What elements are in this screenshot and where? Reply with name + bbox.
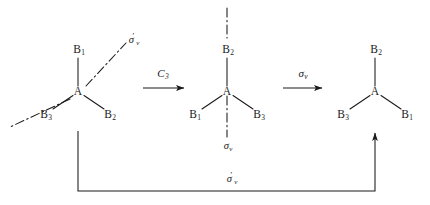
operation-label-sigma-v: σv — [299, 68, 308, 79]
bond-a-b2 — [84, 96, 104, 110]
molecule-left-label-b2: B2 — [104, 109, 116, 121]
molecule-middle-label-a: A — [223, 86, 231, 98]
molecule-right-label-b2: B2 — [370, 44, 382, 56]
molecule-left-label-b1: B1 — [73, 44, 85, 56]
molecule-left-label-b3: B3 — [40, 109, 52, 121]
diagram-lines — [0, 0, 430, 205]
symmetry-diagram-canvas: B1 A B3 B2 σ′v C3 B2 A B1 B3 σv σv B2 A … — [0, 0, 430, 205]
molecule-right-label-b1: B1 — [401, 109, 413, 121]
molecule-middle-mirror-label-sigma-v: σv — [224, 141, 233, 152]
bond-a-b3 — [350, 96, 370, 110]
molecule-right-label-a: A — [371, 86, 379, 98]
bond-a-b3 — [233, 96, 253, 110]
molecule-left-bonds — [53, 58, 104, 109]
bond-a-b1 — [381, 96, 401, 110]
molecule-middle-label-b2: B2 — [222, 44, 234, 56]
operation-label-c3: C3 — [157, 68, 168, 79]
molecule-right-bonds — [350, 58, 401, 109]
operation-label-sigma-v-prime: σ′v — [227, 174, 237, 185]
molecule-left-mirror-label-sigma-v-prime: σ′v — [129, 35, 139, 46]
bond-a-b1 — [202, 96, 222, 110]
molecule-middle-label-b1: B1 — [189, 109, 201, 121]
molecule-middle-label-b3: B3 — [253, 109, 265, 121]
molecule-left-label-a: A — [74, 86, 82, 98]
molecule-right-label-b3: B3 — [337, 109, 349, 121]
